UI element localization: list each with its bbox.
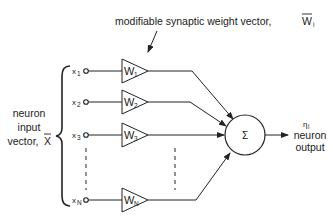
svg-text:x: x xyxy=(72,131,76,140)
svg-text:input: input xyxy=(18,121,41,133)
svg-text:neuron: neuron xyxy=(294,129,327,141)
input-row-n: x N W N xyxy=(72,153,230,212)
svg-text:N: N xyxy=(77,199,82,206)
title-text: modifiable synaptic weight vector, xyxy=(115,15,271,27)
svg-text:vector,: vector, xyxy=(8,135,39,147)
weight-vector-title: modifiable synaptic weight vector, W i xyxy=(115,14,314,52)
input-brace-icon xyxy=(56,66,70,206)
svg-text:1: 1 xyxy=(134,71,138,78)
title-vector-symbol: W xyxy=(302,15,312,27)
svg-text:x: x xyxy=(72,196,76,205)
input-vector-symbol: X xyxy=(44,135,51,147)
sigma-icon: Σ xyxy=(242,130,248,141)
svg-text:output: output xyxy=(295,141,324,153)
output-symbol: η xyxy=(303,120,307,129)
svg-text:2: 2 xyxy=(77,101,81,108)
title-pointer-arrow xyxy=(148,31,157,52)
svg-text:x: x xyxy=(72,98,76,107)
svg-text:3: 3 xyxy=(134,135,138,142)
diagram-canvas: modifiable synaptic weight vector, W i n… xyxy=(0,0,333,224)
svg-text:3: 3 xyxy=(77,134,81,141)
input-row-2: x 2 W 2 xyxy=(72,90,226,126)
svg-text:1: 1 xyxy=(77,70,81,77)
input-terminal-icon xyxy=(84,198,89,203)
svg-text:x: x xyxy=(72,67,76,76)
input-terminal-icon xyxy=(84,133,89,138)
svg-text:2: 2 xyxy=(134,102,138,109)
neuron-model-diagram: modifiable synaptic weight vector, W i n… xyxy=(0,0,333,224)
svg-text:N: N xyxy=(134,200,139,207)
input-row-3: x 3 W 3 xyxy=(72,123,224,147)
input-row-1: x 1 W 1 xyxy=(72,59,233,119)
input-terminal-icon xyxy=(84,100,89,105)
title-vector-subscript: i xyxy=(313,21,314,28)
svg-text:neuron: neuron xyxy=(13,107,46,119)
output-label: η i neuron output xyxy=(294,120,327,153)
input-vector-label: neuron input vector, X xyxy=(8,107,51,147)
input-terminal-icon xyxy=(84,69,89,74)
summation-node: Σ xyxy=(225,115,265,155)
